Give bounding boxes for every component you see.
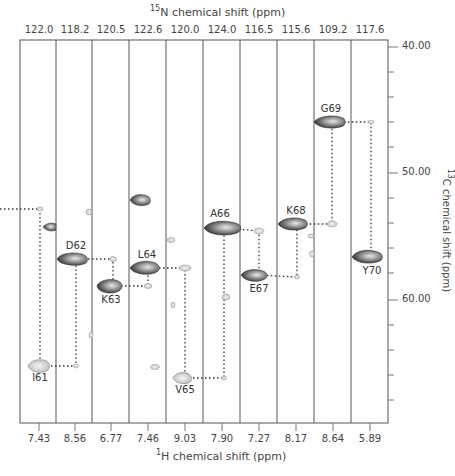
bottom-tick: 8.64	[322, 433, 344, 444]
bottom-ticks	[39, 423, 370, 431]
residue-label-v65: V65	[175, 384, 195, 395]
peak-i61	[28, 360, 50, 373]
peak-k63	[97, 279, 122, 293]
peak-l64	[130, 261, 159, 274]
top-tick: 122.6	[134, 24, 163, 35]
bottom-tick: 5.89	[359, 433, 381, 444]
residue-label-k68: K68	[286, 205, 305, 216]
bottom-axis-title-text: H chemical shift (ppm)	[161, 450, 286, 463]
bottom-tick: 8.17	[285, 433, 307, 444]
top-tick: 120.0	[171, 24, 200, 35]
strip-separators	[56, 40, 351, 423]
top-tick: 118.2	[61, 24, 90, 35]
bottom-tick: 8.56	[64, 433, 86, 444]
bottom-tick: 6.77	[100, 433, 122, 444]
peak-v65	[173, 373, 192, 384]
peak-e67	[241, 270, 267, 282]
bottom-tick: 7.43	[28, 433, 50, 444]
peak-d62	[57, 253, 88, 265]
peak-extra-1	[43, 223, 56, 231]
peak-y70	[352, 250, 382, 263]
residue-label-k63: K63	[101, 294, 120, 305]
bottom-tick: 7.46	[137, 433, 159, 444]
weak-peaks	[37, 120, 374, 380]
top-tick: 120.5	[97, 24, 126, 35]
residue-label-g69: G69	[321, 103, 341, 114]
residue-label-i61: I61	[32, 372, 48, 383]
right-axis-title-text: C chemical shift (ppm)	[441, 179, 452, 292]
top-tick: 124.0	[208, 24, 237, 35]
right-axis-ticks	[388, 47, 398, 400]
right-axis-title: 13C chemical shift (ppm)	[441, 169, 454, 289]
top-axis-title-sup: 15	[150, 4, 160, 13]
right-tick: 60.00	[402, 293, 431, 304]
top-tick: 109.2	[319, 24, 348, 35]
residue-label-l64: L64	[138, 249, 156, 260]
right-tick: 40.00	[402, 40, 431, 51]
bottom-tick: 9.03	[174, 433, 196, 444]
peak-a66	[204, 221, 241, 235]
bottom-axis-title: 1H chemical shift (ppm)	[156, 448, 286, 463]
peak-g69	[314, 116, 345, 128]
right-tick: 50.00	[402, 166, 431, 177]
nmr-strip-plot	[0, 0, 455, 476]
residue-label-e67: E67	[249, 283, 268, 294]
top-axis-title-text: N chemical shift (ppm)	[160, 6, 285, 19]
top-tick: 115.6	[282, 24, 311, 35]
top-tick: 116.5	[245, 24, 274, 35]
bottom-tick: 7.27	[248, 433, 270, 444]
residue-label-a66: A66	[210, 208, 230, 219]
right-axis-title-sup: 13	[446, 169, 455, 179]
top-tick: 117.6	[356, 24, 385, 35]
residue-label-d62: D62	[66, 240, 86, 251]
top-axis-title: 15N chemical shift (ppm)	[150, 4, 285, 19]
top-tick: 122.0	[25, 24, 54, 35]
peak-k68	[278, 218, 307, 230]
residue-label-y70: Y70	[363, 265, 382, 276]
bottom-tick: 7.90	[211, 433, 233, 444]
peak-extra-2	[130, 195, 151, 206]
